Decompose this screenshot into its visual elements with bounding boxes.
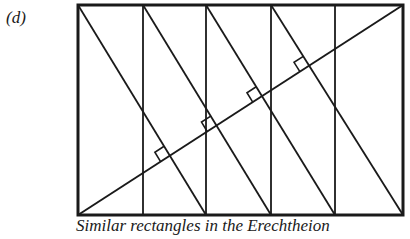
panel-diagonal (271, 5, 403, 215)
figure-caption: Similar rectangles in the Erechtheion (76, 216, 410, 236)
panel-diagonal (143, 5, 271, 215)
panel-diagonal (78, 5, 206, 215)
similar-rectangles-diagram (0, 0, 410, 239)
main-diagonal (78, 5, 403, 215)
